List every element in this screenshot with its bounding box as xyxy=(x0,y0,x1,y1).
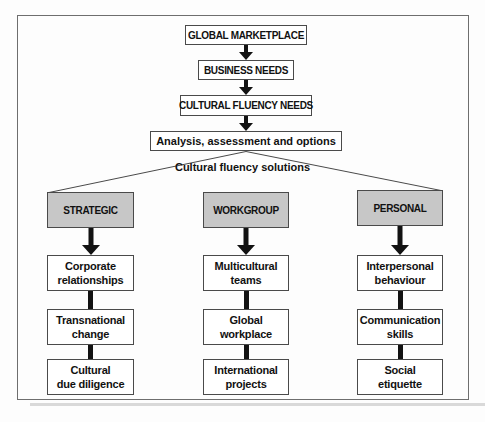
connector-bar-personal-2 xyxy=(398,345,403,359)
connector-bar-strategic-1 xyxy=(88,291,93,309)
flow-box-cultural-fluency-needs: CULTURAL FLUENCY NEEDS xyxy=(180,95,312,116)
item-box-social-etiquette: Social etiquette xyxy=(357,359,443,395)
connector-bar-workgroup-2 xyxy=(244,345,249,359)
item-box-communication-skills: Communication skills xyxy=(357,309,443,345)
connector-bar-workgroup-1 xyxy=(244,291,249,309)
item-box-international-projects: International projects xyxy=(203,359,289,395)
category-box-workgroup: WORKGROUP xyxy=(203,192,289,228)
item-box-corporate-relationships: Corporate relationships xyxy=(47,255,134,291)
flow-box-global-marketplace: GLOBAL MARKETPLACE xyxy=(185,25,307,45)
item-box-interpersonal-behaviour: Interpersonal behaviour xyxy=(357,255,443,291)
arrow-global-to-business xyxy=(239,45,253,60)
scan-shadow-line xyxy=(30,403,485,406)
category-box-personal: PERSONAL xyxy=(357,190,443,226)
arrow-workgroup-to-items xyxy=(237,228,255,255)
arrow-personal-to-items xyxy=(391,226,409,255)
item-box-global-workplace: Global workplace xyxy=(203,309,289,345)
solutions-label: Cultural fluency solutions xyxy=(0,161,485,173)
item-box-cultural-due-diligence: Cultural due diligence xyxy=(47,359,134,395)
connector-bar-personal-1 xyxy=(398,291,403,309)
arrow-business-to-cultural xyxy=(239,80,253,95)
cultural-fluency-flowchart: GLOBAL MARKETPLACE BUSINESS NEEDS CULTUR… xyxy=(0,0,485,422)
connector-bar-strategic-2 xyxy=(88,345,93,359)
arrow-cultural-to-analysis xyxy=(239,116,253,131)
flow-box-business-needs: BUSINESS NEEDS xyxy=(198,60,294,80)
item-box-transnational-change: Transnational change xyxy=(47,309,134,345)
category-box-strategic: STRATEGIC xyxy=(47,192,134,228)
item-box-multicultural-teams: Multicultural teams xyxy=(203,255,289,291)
arrow-strategic-to-items xyxy=(82,228,100,255)
flow-box-analysis-assessment-options: Analysis, assessment and options xyxy=(150,131,342,151)
